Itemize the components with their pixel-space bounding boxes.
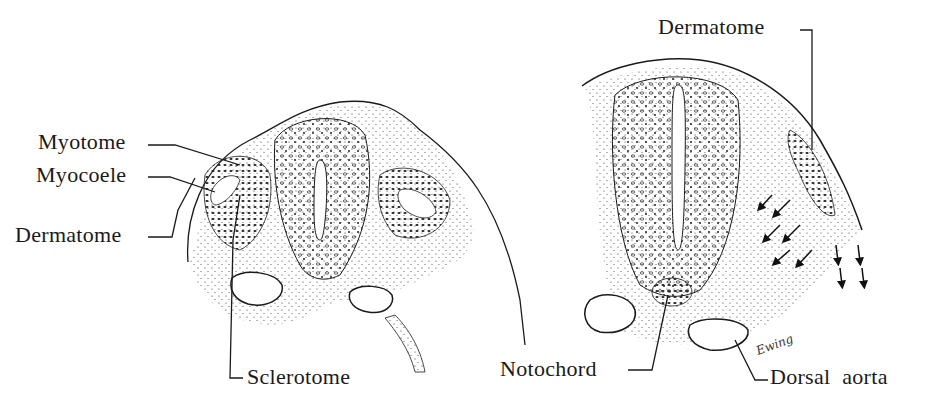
label-dorsal-aorta: Dorsal aorta xyxy=(770,364,888,390)
label-notochord: Notochord xyxy=(500,356,597,382)
label-dermatome-right: Dermatome xyxy=(658,14,765,40)
embryo-sections-drawing: Ewing xyxy=(0,0,928,402)
label-dermatome-left: Dermatome xyxy=(15,222,122,248)
left-embryo-section xyxy=(188,101,525,372)
label-sclerotome: Sclerotome xyxy=(247,364,350,390)
artist-signature: Ewing xyxy=(753,331,795,358)
label-myocoele: Myocoele xyxy=(36,162,126,188)
right-embryo-section: Ewing xyxy=(582,59,864,358)
label-myotome: Myotome xyxy=(38,129,126,155)
